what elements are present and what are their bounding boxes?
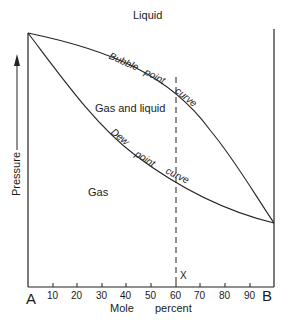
tick-30: 30 bbox=[96, 290, 107, 301]
tick-80: 80 bbox=[219, 290, 230, 301]
tick-50: 50 bbox=[145, 290, 156, 301]
x-axis-label-left: Mole bbox=[110, 302, 134, 314]
arrow-up-icon bbox=[14, 54, 20, 66]
x-axis-label-right: percent bbox=[155, 302, 192, 314]
tick-10: 10 bbox=[47, 290, 58, 301]
label-gas: Gas bbox=[88, 186, 108, 198]
dew-point-curve bbox=[28, 33, 274, 223]
bubble-point-curve bbox=[28, 33, 274, 223]
x-tick-labels: 10 20 30 40 50 60 70 80 90 bbox=[0, 290, 288, 304]
y-axis-label: Pressure bbox=[10, 152, 22, 196]
tick-70: 70 bbox=[194, 290, 205, 301]
tick-90: 90 bbox=[244, 290, 255, 301]
tick-20: 20 bbox=[71, 290, 82, 301]
label-two-phase: Gas and liquid bbox=[95, 102, 165, 114]
tick-60: 60 bbox=[170, 290, 181, 301]
label-liquid: Liquid bbox=[133, 9, 162, 21]
marker-x-label: X bbox=[180, 270, 187, 281]
tick-40: 40 bbox=[120, 290, 131, 301]
